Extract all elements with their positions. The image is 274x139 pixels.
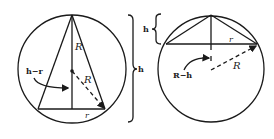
right-h-brace <box>152 14 161 44</box>
left-h-brace <box>128 15 137 122</box>
label-right-R: R <box>232 60 241 71</box>
label-left-h: h <box>138 64 144 74</box>
left-triangle-side-right <box>72 15 105 109</box>
label-right-r: r <box>229 35 234 44</box>
label-left-R-upper: R <box>74 41 83 52</box>
diagram-stage: R R h−r r h h r R R−h <box>0 0 274 139</box>
right-figure <box>152 14 264 122</box>
label-right-h: h <box>143 24 149 34</box>
label-right-R-minus-h: R−h <box>173 70 192 80</box>
right-triangle-side-right <box>211 15 257 44</box>
left-center-dot <box>70 69 74 73</box>
label-left-R-diag: R <box>83 74 92 85</box>
label-left-h-minus-r: h−r <box>26 66 44 76</box>
right-R-minus-h-arrow <box>184 58 209 70</box>
left-h-minus-r-arrow <box>34 78 68 88</box>
spherical-geometry-diagram: R R h−r r h h r R R−h <box>0 0 274 139</box>
right-triangle-side-left <box>166 15 211 44</box>
left-triangle-side-left <box>38 15 72 109</box>
label-left-r: r <box>85 111 90 120</box>
